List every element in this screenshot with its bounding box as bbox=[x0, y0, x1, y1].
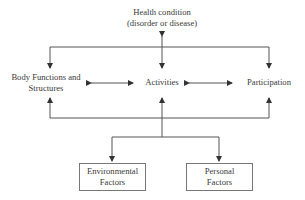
health-condition-line1: Health condition bbox=[112, 7, 212, 18]
diagram-connectors bbox=[0, 0, 305, 200]
node-personal-factors: Personal Factors bbox=[186, 163, 253, 191]
node-body-functions: Body Functions and Structures bbox=[2, 72, 90, 94]
activities-label: Activities bbox=[136, 77, 188, 88]
personal-line2: Factors bbox=[207, 177, 232, 188]
node-health-condition: Health condition (disorder or disease) bbox=[112, 7, 212, 29]
body-functions-line2: Structures bbox=[2, 83, 90, 94]
environmental-line2: Factors bbox=[100, 177, 125, 188]
health-condition-line2: (disorder or disease) bbox=[112, 18, 212, 29]
personal-line1: Personal bbox=[205, 166, 235, 177]
environmental-line1: Environmental bbox=[87, 166, 138, 177]
node-participation: Participation bbox=[234, 77, 304, 88]
body-functions-line1: Body Functions and bbox=[2, 72, 90, 83]
participation-label: Participation bbox=[234, 77, 304, 88]
node-activities: Activities bbox=[136, 77, 188, 88]
node-environmental-factors: Environmental Factors bbox=[79, 163, 146, 191]
